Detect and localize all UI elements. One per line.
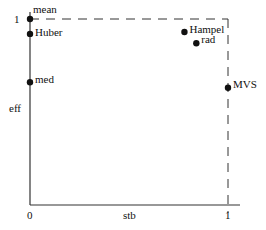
point-med bbox=[27, 79, 33, 85]
point-mvs bbox=[225, 85, 231, 91]
point-label-med: med bbox=[35, 74, 54, 85]
x-axis-label: stb bbox=[123, 210, 136, 221]
point-label-mean: mean bbox=[33, 4, 57, 15]
y-tick-label-1: 1 bbox=[14, 14, 20, 25]
point-hampel bbox=[181, 29, 187, 35]
point-huber bbox=[27, 31, 33, 37]
x-tick-label-1: 1 bbox=[225, 210, 231, 221]
point-label-rad: rad bbox=[201, 34, 215, 45]
point-rad bbox=[193, 40, 199, 46]
y-axis-label: eff bbox=[9, 103, 21, 114]
x-tick-label-0: 0 bbox=[27, 210, 33, 221]
point-label-huber: Huber bbox=[35, 27, 63, 38]
point-mean bbox=[27, 16, 33, 22]
point-label-mvs: MVS bbox=[233, 79, 257, 90]
